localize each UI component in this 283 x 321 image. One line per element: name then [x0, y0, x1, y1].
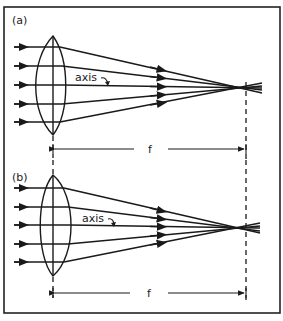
- axis-label-b: axis: [82, 212, 104, 225]
- focal-length-label-a: f: [148, 143, 153, 156]
- panel-a: (a): [12, 14, 262, 160]
- focal-length-label-b: f: [147, 287, 152, 300]
- refracted-rays-b: [64, 188, 260, 262]
- focal-length-dimension-b: f: [53, 287, 246, 300]
- figure-frame: [4, 7, 280, 313]
- refracted-rays-a: [60, 47, 262, 122]
- incoming-rays-a: [14, 47, 63, 122]
- axis-label-a: axis: [75, 71, 97, 84]
- panel-b: (b): [12, 160, 260, 300]
- lens-focal-length-diagram: (a): [0, 0, 283, 321]
- focal-length-dimension-a: f: [53, 143, 246, 156]
- panel-label-a: (a): [12, 14, 27, 27]
- panel-label-b: (b): [12, 171, 28, 184]
